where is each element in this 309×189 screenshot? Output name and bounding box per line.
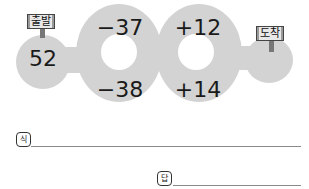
start-sign-label: 출발	[30, 15, 52, 28]
end-sign: 도착	[256, 26, 284, 41]
start-value: 52	[16, 48, 70, 70]
end-sign-post	[269, 40, 274, 52]
answer-input-line[interactable]	[173, 185, 301, 186]
expression-input-line[interactable]	[31, 146, 301, 147]
end-sign-label: 도착	[259, 27, 281, 40]
ring-1-top-value: −37	[92, 17, 148, 39]
ring-2-top-value: +12	[170, 17, 226, 39]
expression-label: 식	[16, 132, 31, 147]
ring-1-bottom-value: −38	[92, 79, 148, 101]
start-sign: 출발	[27, 14, 55, 29]
answer-label: 답	[157, 171, 172, 186]
ring-2-bottom-value: +14	[170, 79, 226, 101]
